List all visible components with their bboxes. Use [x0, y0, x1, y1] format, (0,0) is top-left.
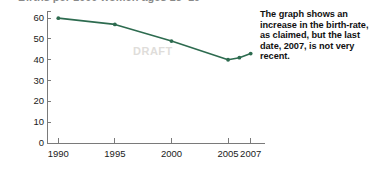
data-point-marker [226, 58, 230, 62]
data-series-line [58, 18, 250, 60]
series-polyline [58, 18, 250, 60]
data-point-markers [56, 16, 252, 61]
tick-marks [47, 18, 251, 143]
line-chart-figure: Births per 1000 women ages 15–19 0102030… [0, 0, 376, 178]
data-point-marker [249, 52, 253, 56]
data-point-marker [113, 23, 117, 27]
data-point-marker [56, 16, 60, 20]
annotation-note: The graph shows an increase in the birth… [260, 9, 374, 62]
data-point-marker [170, 39, 174, 43]
data-point-marker [237, 56, 241, 60]
axis-lines [47, 11, 265, 143]
